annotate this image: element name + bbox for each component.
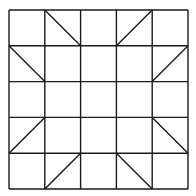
- diagonal-line: [9, 46, 45, 82]
- diagonal-line: [116, 10, 152, 46]
- diagonal-line: [45, 10, 81, 46]
- diagonal-line: [9, 117, 45, 153]
- quilt-grid-diagram: [0, 0, 196, 196]
- diagonal-line: [152, 117, 188, 153]
- diagonal-line: [152, 46, 188, 82]
- diagonal-line: [116, 153, 152, 189]
- diagonal-line: [45, 153, 81, 189]
